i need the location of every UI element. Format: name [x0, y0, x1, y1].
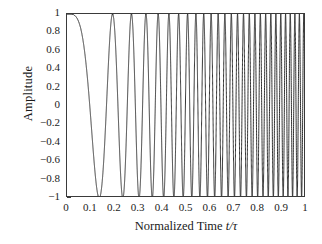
chart-figure: Amplitude Normalized Time t/τ 10.80.60.4…: [0, 0, 322, 244]
y-tick-label: −0.8: [20, 172, 60, 184]
y-tick-label: 0.6: [20, 43, 60, 55]
y-tick-mark: [67, 197, 71, 198]
y-tick-label: −0.6: [20, 153, 60, 165]
y-tick-label: 0: [20, 98, 60, 110]
plot-area: [66, 13, 305, 197]
y-tick-label: 0.4: [20, 61, 60, 73]
y-tick-label: −0.4: [20, 135, 60, 147]
chirp-waveform: [67, 14, 305, 197]
y-tick-label: 1: [20, 6, 60, 18]
x-axis-label: Normalized Time t/τ: [66, 219, 306, 234]
y-tick-label: −0.2: [20, 116, 60, 128]
x-tick-label: 1: [285, 201, 322, 213]
x-axis-label-symbol: t/τ: [226, 219, 237, 233]
x-axis-label-prefix: Normalized Time: [135, 219, 226, 233]
y-tick-label: 0.8: [20, 24, 60, 36]
y-tick-label: 0.2: [20, 80, 60, 92]
